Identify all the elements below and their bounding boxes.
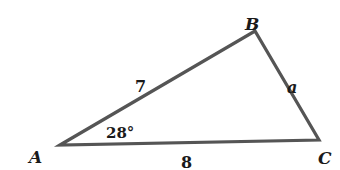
triangle-abc bbox=[60, 31, 319, 145]
side-label-bc: a bbox=[287, 78, 297, 97]
vertex-label-b: B bbox=[244, 14, 259, 34]
side-label-ac: 8 bbox=[181, 153, 192, 170]
side-label-ab: 7 bbox=[135, 77, 146, 96]
vertex-label-a: A bbox=[27, 147, 42, 167]
triangle-diagram: A B C 7 a 8 28° bbox=[0, 0, 340, 170]
vertex-label-c: C bbox=[318, 148, 332, 168]
angle-label-a: 28° bbox=[106, 124, 134, 142]
